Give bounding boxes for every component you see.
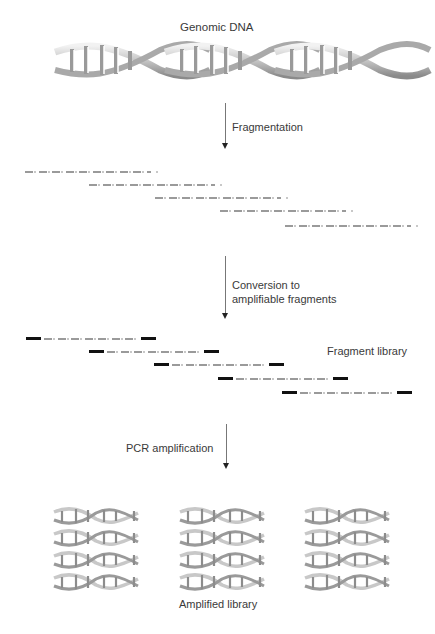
fragment-gap bbox=[249, 364, 251, 366]
fragment-segment bbox=[103, 184, 111, 186]
fragment-segment bbox=[89, 184, 97, 186]
fragment-segment bbox=[52, 171, 60, 173]
fragment-gap bbox=[308, 225, 310, 227]
pcr-amplification-label: PCR amplification bbox=[126, 442, 213, 455]
fragment-segment bbox=[247, 210, 255, 212]
fragment-gap bbox=[299, 378, 301, 380]
fragment-segment bbox=[220, 210, 228, 212]
fragment-gap bbox=[152, 184, 154, 186]
fragment-gap bbox=[208, 364, 210, 366]
fragment-gap bbox=[34, 171, 36, 173]
fragment-gap bbox=[218, 197, 220, 199]
fragment-segment bbox=[290, 378, 298, 380]
fragment-gap bbox=[94, 338, 96, 340]
fragment-segment bbox=[299, 225, 307, 227]
fragment-gap bbox=[256, 210, 258, 212]
fragment-gap bbox=[270, 210, 272, 212]
amplified-dna-copy-icon bbox=[52, 551, 140, 570]
fragment-gap bbox=[259, 378, 261, 380]
fragment-segment bbox=[327, 392, 335, 394]
amplified-dna-copy-icon bbox=[52, 507, 140, 526]
fragment-segment bbox=[125, 338, 133, 340]
fragment-segment bbox=[98, 338, 106, 340]
fragment-gap bbox=[235, 364, 237, 366]
fragment-segment bbox=[253, 364, 261, 366]
fragment-segment bbox=[314, 392, 322, 394]
fragment-segment bbox=[341, 392, 349, 394]
fragment-segment bbox=[211, 184, 216, 186]
fragment-segment bbox=[328, 210, 336, 212]
fragment-segment bbox=[380, 225, 388, 227]
fragment-segment bbox=[39, 171, 47, 173]
fragment-gap bbox=[61, 171, 63, 173]
fragment-segment bbox=[312, 225, 320, 227]
fragment-gap bbox=[294, 225, 296, 227]
fragment-gap bbox=[115, 171, 117, 173]
genomic-dna-label: Genomic DNA bbox=[180, 21, 254, 34]
adapter-right bbox=[333, 377, 348, 380]
fragment-gap bbox=[98, 184, 100, 186]
fragment-gap bbox=[129, 171, 131, 173]
fragment-segment bbox=[196, 197, 204, 199]
fragment-gap bbox=[178, 197, 180, 199]
fragment-gap bbox=[130, 351, 132, 353]
fragment-segment bbox=[236, 197, 244, 199]
fragment-segment bbox=[353, 225, 361, 227]
conversion-label-line2: amplifiable fragments bbox=[232, 293, 337, 306]
fragment-segment bbox=[226, 364, 234, 366]
fragment-segment bbox=[130, 184, 138, 186]
fragment-gap bbox=[112, 184, 114, 186]
fragment-gap bbox=[232, 197, 234, 199]
amplified-dna-copy-icon bbox=[52, 529, 140, 548]
fragment-gap bbox=[142, 171, 144, 173]
fragment-gap bbox=[121, 338, 123, 340]
adapter-right bbox=[204, 350, 219, 353]
fragment-gap bbox=[197, 351, 199, 353]
fragment-segment bbox=[134, 351, 142, 353]
amplified-library-label: Amplified library bbox=[179, 598, 257, 611]
fragment-segment bbox=[288, 210, 296, 212]
fragment-segment bbox=[354, 392, 362, 394]
fragment-segment bbox=[155, 197, 163, 199]
fragment-segment bbox=[85, 338, 93, 340]
fragment-gap bbox=[272, 378, 274, 380]
fragment-gap bbox=[107, 338, 109, 340]
fragment-gap bbox=[259, 197, 261, 199]
fragment-gap bbox=[67, 338, 69, 340]
fragmentation-label: Fragmentation bbox=[232, 121, 303, 134]
fragment-segment bbox=[120, 171, 128, 173]
fragment-segment bbox=[407, 225, 412, 227]
fragment-gap bbox=[102, 171, 104, 173]
fragment-gap bbox=[321, 225, 323, 227]
fragment-gap bbox=[143, 351, 145, 353]
fragment-segment bbox=[148, 351, 156, 353]
conversion-label-line1: Conversion to bbox=[232, 279, 300, 292]
fragment-gap bbox=[297, 210, 299, 212]
fragment-gap bbox=[390, 392, 392, 394]
fragment-segment bbox=[274, 210, 282, 212]
fragment-segment bbox=[197, 184, 205, 186]
fragment-gap bbox=[184, 351, 186, 353]
fragment-gap bbox=[389, 225, 391, 227]
fragment-segment bbox=[240, 364, 248, 366]
adapter-left bbox=[154, 363, 169, 366]
fragment-gap bbox=[229, 210, 231, 212]
fragment-gap bbox=[262, 364, 264, 366]
adapter-left bbox=[89, 350, 104, 353]
fragment-segment bbox=[133, 171, 141, 173]
fragment-gap bbox=[75, 171, 77, 173]
fragment-gap bbox=[80, 338, 82, 340]
fragment-segment bbox=[301, 210, 309, 212]
fragment-gap bbox=[324, 210, 326, 212]
fragment-segment bbox=[186, 364, 194, 366]
fragment-gap bbox=[375, 225, 377, 227]
fragment-gap bbox=[402, 225, 404, 227]
fragment-gap bbox=[179, 184, 181, 186]
fragment-gap bbox=[88, 171, 90, 173]
fragment-gap bbox=[222, 364, 224, 366]
fragment-gap bbox=[416, 225, 418, 227]
fragment-gap bbox=[193, 184, 195, 186]
fragment-segment bbox=[285, 225, 293, 227]
fragment-segment bbox=[250, 378, 258, 380]
fragment-segment bbox=[121, 351, 129, 353]
